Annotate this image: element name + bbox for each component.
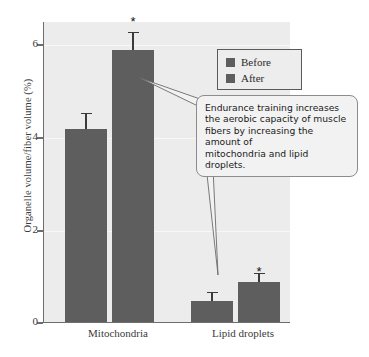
callout-line-2: the aerobic capacity of muscle	[205, 113, 350, 124]
errorcap-mitochondria-after	[128, 32, 139, 33]
legend-label-after: After	[241, 73, 264, 84]
callout-line-3: fibers by increasing the amount of	[205, 125, 350, 148]
legend-label-before: Before	[241, 57, 271, 68]
errorcap-lipid-before	[207, 292, 218, 293]
legend-item-before: Before	[226, 54, 301, 70]
legend: Before After	[217, 49, 302, 90]
legend-swatch-before	[226, 58, 235, 67]
bar-lipid-after	[238, 282, 280, 322]
callout-box: Endurance training increases the aerobic…	[196, 95, 358, 177]
errorcap-mitochondria-before	[81, 113, 92, 114]
bar-mitochondria-before	[65, 129, 107, 322]
x-axis-label-lipid-droplets: Lipid droplets	[183, 327, 303, 339]
gridline-6	[44, 45, 290, 46]
significance-asterisk-mitochondria: *	[126, 15, 140, 28]
x-axis-label-mitochondria: Mitochondria	[58, 327, 178, 339]
callout-line-1: Endurance training increases	[205, 102, 350, 113]
bar-lipid-before	[191, 301, 233, 322]
errorbar-mitochondria-after	[132, 33, 133, 50]
ytick-label-0: 0	[18, 316, 38, 327]
errorbar-mitochondria-before	[85, 114, 86, 129]
legend-item-after: After	[226, 70, 301, 86]
callout-line-4: mitochondria and lipid droplets.	[205, 148, 350, 171]
bar-mitochondria-after	[112, 50, 154, 322]
significance-asterisk-lipid: *	[252, 265, 266, 278]
figure-root: * * Before After 6 4	[0, 0, 369, 357]
legend-swatch-after	[226, 74, 235, 83]
errorbar-lipid-before	[211, 293, 212, 301]
y-axis-title: Organelle volume/fiber volume (%)	[22, 41, 33, 271]
